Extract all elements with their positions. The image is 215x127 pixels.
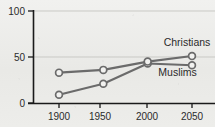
x-tick-label-2050: 2050: [181, 111, 204, 122]
series-label-muslims: Muslims: [158, 66, 197, 78]
x-tick-label-2000: 2000: [136, 111, 159, 122]
gridlines: [33, 11, 215, 57]
series-christians-marker-2000: [144, 58, 151, 65]
series-christians-marker-1950: [100, 66, 107, 73]
series-muslims-marker-1950: [100, 80, 107, 87]
y-tick-label-0: 0: [19, 98, 25, 109]
y-tick-label-50: 50: [14, 52, 26, 63]
y-axis-ticks: 100 50 0: [8, 6, 33, 109]
x-tick-label-1950: 1950: [89, 111, 112, 122]
chart-screenshot: 100 50 0 1900 1950 2000 2050: [0, 0, 215, 127]
series-muslims-marker-1900: [56, 91, 63, 98]
y-tick-label-100: 100: [8, 6, 25, 17]
series-christians-marker-1900: [56, 69, 63, 76]
line-chart: 100 50 0 1900 1950 2000 2050: [0, 0, 215, 127]
series-label-christians: Christians: [164, 36, 211, 48]
x-axis-ticks: 1900 1950 2000 2050: [48, 103, 204, 122]
x-tick-label-1900: 1900: [48, 111, 71, 122]
series-christians-marker-2050: [189, 53, 196, 60]
